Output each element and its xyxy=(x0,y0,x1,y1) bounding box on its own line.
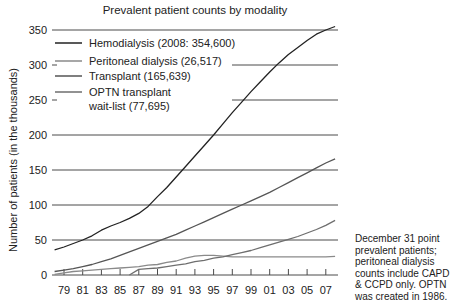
note-line: was created in 1986. xyxy=(355,291,462,303)
note-line: counts include CAPD xyxy=(355,268,462,280)
y-tick-label: 250 xyxy=(29,94,47,106)
series-line-2 xyxy=(55,159,336,272)
x-tick-label: 87 xyxy=(133,284,145,296)
legend-label: Peritoneal dialysis (26,517) xyxy=(89,55,222,67)
x-tick-label: 03 xyxy=(282,284,294,296)
x-tick-label: 93 xyxy=(189,284,201,296)
x-axis: 798183858789919395979901030507 xyxy=(58,269,332,296)
legend-label: OPTN transplant xyxy=(89,86,171,98)
y-tick-label: 0 xyxy=(41,269,47,281)
y-tick-label: 350 xyxy=(29,24,47,36)
note-line: prevalent patients; xyxy=(355,245,462,257)
x-tick-label: 05 xyxy=(301,284,313,296)
x-tick-label: 83 xyxy=(95,284,107,296)
note-line: peritoneal dialysis xyxy=(355,256,462,268)
legend-label: Transplant (165,639) xyxy=(89,70,191,82)
legend: Hemodialysis (2008: 354,600)Peritoneal d… xyxy=(55,37,235,112)
y-tick-label: 100 xyxy=(29,199,47,211)
y-tick-label: 300 xyxy=(29,59,47,71)
x-tick-label: 01 xyxy=(264,284,276,296)
x-tick-label: 81 xyxy=(77,284,89,296)
y-axis: 050100150200250300350 xyxy=(29,24,57,281)
x-tick-label: 99 xyxy=(245,284,257,296)
x-tick-label: 91 xyxy=(170,284,182,296)
x-tick-label: 89 xyxy=(151,284,163,296)
note-line: & CCPD only. OPTN xyxy=(355,279,462,291)
x-tick-label: 85 xyxy=(114,284,126,296)
x-tick-label: 97 xyxy=(226,284,238,296)
x-tick-label: 07 xyxy=(320,284,332,296)
y-axis-label: Number of patients (in the thousands) xyxy=(7,68,19,252)
series-line-3 xyxy=(129,220,335,275)
y-tick-label: 200 xyxy=(29,129,47,141)
y-tick-label: 50 xyxy=(35,234,47,246)
note-line: December 31 point xyxy=(355,233,462,245)
y-tick-label: 150 xyxy=(29,164,47,176)
legend-label-cont: wait-list (77,695) xyxy=(88,100,170,112)
x-tick-label: 79 xyxy=(58,284,70,296)
chart-note: December 31 point prevalent patients; pe… xyxy=(355,233,462,302)
legend-label: Hemodialysis (2008: 354,600) xyxy=(89,37,235,49)
x-tick-label: 95 xyxy=(207,284,219,296)
